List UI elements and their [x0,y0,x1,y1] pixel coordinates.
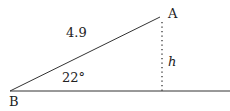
height-label: h [168,54,176,69]
hypotenuse-length-label: 4.9 [66,25,87,40]
vertex-b-label: B [9,94,19,109]
vertex-a-label: A [167,6,178,21]
angle-label: 22° [62,70,85,85]
triangle-diagram: A B 4.9 22° h [0,0,230,111]
